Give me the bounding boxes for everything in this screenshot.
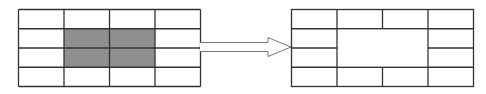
before-grid: [19, 10, 201, 87]
shaded-cell: [110, 48, 156, 67]
shaded-cell: [64, 29, 110, 48]
merge-cells-diagram: [0, 0, 486, 94]
arrow-icon: [200, 38, 291, 57]
after-grid: [292, 10, 474, 87]
shaded-cell: [110, 29, 156, 48]
arrow-shape: [200, 38, 291, 57]
shaded-cell: [64, 48, 110, 67]
merged-cell: [338, 30, 427, 67]
